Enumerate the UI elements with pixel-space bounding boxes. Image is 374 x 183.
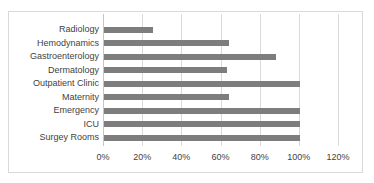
bar-dermatology <box>104 67 227 73</box>
y-axis-label: Dermatology <box>11 64 99 77</box>
bar-icu <box>104 121 300 127</box>
x-axis-tick-label: 0% <box>85 152 121 163</box>
y-axis-label: Surgey Rooms <box>11 131 99 144</box>
bar-outpatient-clinic <box>104 81 300 87</box>
bar-gastroenterology <box>104 54 276 60</box>
x-axis-tick-label: 20% <box>124 152 160 163</box>
gridline-120 <box>338 14 339 146</box>
y-axis-label: Hemodynamics <box>11 37 99 50</box>
plot-area <box>103 14 338 146</box>
bar-maternity <box>104 94 229 100</box>
x-axis-tick-label: 100% <box>281 152 317 163</box>
y-axis-label: ICU <box>11 118 99 131</box>
x-axis-tick-label: 40% <box>163 152 199 163</box>
y-axis-label: Outpatient Clinic <box>11 77 99 90</box>
x-axis-tick-label: 120% <box>320 152 356 163</box>
y-axis-label: Emergency <box>11 104 99 117</box>
y-axis-label: Radiology <box>11 23 99 36</box>
bar-emergency <box>104 108 300 114</box>
bar-surgey-rooms <box>104 135 300 141</box>
chart-screenshot: RadiologyHemodynamicsGastroenterologyDer… <box>0 0 374 183</box>
x-axis-tick-label: 60% <box>203 152 239 163</box>
x-axis-tick-label: 80% <box>242 152 278 163</box>
bar-radiology <box>104 27 153 33</box>
y-axis-label: Gastroenterology <box>11 50 99 63</box>
y-axis-label: Maternity <box>11 91 99 104</box>
bar-chart-frame: RadiologyHemodynamicsGastroenterologyDer… <box>8 11 363 173</box>
bar-hemodynamics <box>104 40 229 46</box>
